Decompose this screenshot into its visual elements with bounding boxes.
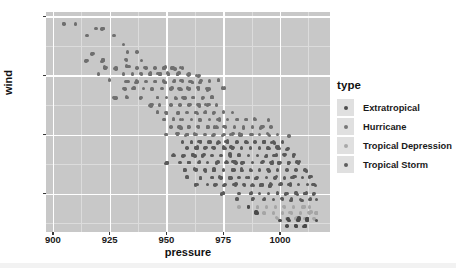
data-point [191, 153, 194, 156]
data-point [132, 86, 135, 89]
data-point [293, 175, 296, 178]
data-point [268, 184, 271, 187]
data-point [198, 119, 201, 122]
data-point [101, 58, 104, 61]
gridline-major-vertical [53, 12, 54, 232]
data-point [178, 161, 181, 164]
data-point [236, 118, 239, 121]
data-point [211, 176, 214, 179]
legend-key-swatch [337, 137, 354, 154]
data-point [172, 117, 175, 120]
data-point [196, 112, 199, 115]
data-point [211, 134, 214, 137]
data-point [97, 72, 100, 75]
data-point [277, 162, 280, 165]
x-axis-tick-label: 1000 [260, 234, 300, 245]
data-point [181, 96, 184, 99]
data-point [315, 219, 318, 222]
legend-point-icon [344, 125, 348, 129]
data-point [204, 110, 207, 113]
data-point [247, 154, 250, 157]
data-point [193, 133, 196, 136]
data-point [153, 66, 156, 69]
legend-item-extratropical[interactable]: Extratropical [337, 98, 452, 117]
data-point [259, 126, 262, 129]
data-point [142, 87, 145, 90]
data-point [216, 141, 219, 144]
data-point [309, 197, 312, 200]
data-point [287, 134, 290, 137]
data-point [212, 167, 215, 170]
y-axis-title: wind [2, 70, 14, 95]
data-point [312, 193, 315, 196]
data-point [222, 191, 225, 194]
data-point [284, 192, 287, 195]
data-point [297, 183, 300, 186]
data-point [251, 125, 254, 128]
data-point [288, 211, 291, 214]
data-point [228, 152, 231, 155]
data-point [285, 224, 288, 227]
data-point [286, 217, 289, 220]
data-point [308, 205, 311, 208]
data-point [158, 103, 161, 106]
data-point [131, 72, 134, 75]
data-point [223, 183, 226, 186]
data-point [208, 118, 211, 121]
data-point [94, 27, 97, 30]
data-point [170, 86, 173, 89]
data-point [218, 117, 221, 120]
data-point [202, 96, 205, 99]
data-point [276, 168, 279, 171]
data-point [243, 184, 246, 187]
x-axis-tick-label: 975 [203, 234, 243, 245]
data-point [198, 81, 201, 84]
data-point [170, 66, 173, 69]
data-point [169, 125, 172, 128]
data-point [139, 96, 142, 99]
data-point [140, 59, 143, 62]
data-point [222, 125, 225, 128]
data-point [299, 211, 302, 214]
legend-item-tropical-storm[interactable]: Tropical Storm [337, 155, 452, 174]
data-point [102, 27, 105, 30]
data-point [217, 79, 220, 82]
data-point [122, 72, 125, 75]
data-point [135, 50, 138, 53]
gridline-major-vertical [166, 12, 167, 232]
data-point [206, 183, 209, 186]
x-axis-tick-label: 950 [146, 234, 186, 245]
legend-item-tropical-depression[interactable]: Tropical Depression [337, 136, 452, 155]
data-point [149, 104, 152, 107]
data-point [237, 205, 240, 208]
data-point [165, 112, 168, 115]
data-point [265, 205, 268, 208]
data-point [245, 141, 248, 144]
data-point [229, 176, 232, 179]
data-point [247, 205, 250, 208]
data-point [188, 103, 191, 106]
legend-point-icon [344, 144, 348, 148]
data-point [112, 34, 115, 37]
data-point [164, 81, 167, 84]
data-point [279, 182, 282, 185]
data-point [125, 95, 128, 98]
data-point [187, 87, 190, 90]
gridline-major-horizontal [46, 16, 330, 17]
data-point [190, 118, 193, 121]
data-point [265, 176, 268, 179]
legend-item-hurricane[interactable]: Hurricane [337, 117, 452, 136]
data-point [84, 59, 87, 62]
legend-item-label: Tropical Depression [363, 141, 452, 151]
data-point [194, 184, 197, 187]
data-point [306, 217, 309, 220]
data-point [202, 153, 205, 156]
legend-point-icon [344, 163, 348, 167]
plot-panel [46, 12, 330, 232]
data-point [213, 183, 216, 186]
data-point [286, 147, 289, 150]
legend-item-label: Tropical Storm [363, 160, 428, 170]
y-axis-tick-mark [43, 193, 46, 194]
data-point [185, 146, 188, 149]
data-point [181, 140, 184, 143]
